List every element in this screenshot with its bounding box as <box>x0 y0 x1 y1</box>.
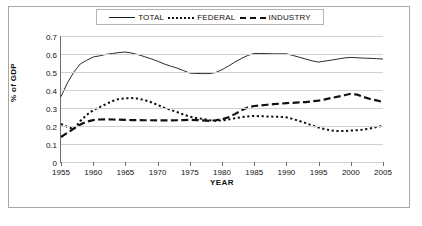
x-tick-label: 1995 <box>310 168 328 177</box>
x-tick-mark <box>125 162 126 166</box>
y-tick-label: 0.6 <box>46 51 57 60</box>
x-tick-label: 1975 <box>181 168 199 177</box>
gridline-y: 0.5 <box>61 72 383 73</box>
x-tick-mark <box>351 162 352 166</box>
x-tick-mark <box>222 162 223 166</box>
gridline-y: 0.3 <box>61 108 383 109</box>
x-tick-mark <box>254 162 255 166</box>
y-tick-label: 0.7 <box>46 33 57 42</box>
y-tick-label: 0.4 <box>46 87 57 96</box>
chart-figure: TOTAL FEDERAL INDUSTRY % of GDP YEAR 0.7… <box>0 0 422 226</box>
x-tick-label: 1985 <box>245 168 263 177</box>
x-tick-label: 1965 <box>116 168 134 177</box>
y-axis-title: % of GDP <box>9 48 18 118</box>
y-tick-label: 0 <box>53 159 57 168</box>
x-tick-mark <box>158 162 159 166</box>
gridline-y: 0.1 <box>61 144 383 145</box>
gridline-y: 0.2 <box>61 126 383 127</box>
x-tick-mark <box>93 162 94 166</box>
x-tick-label: 1970 <box>149 168 167 177</box>
gridline-y: 0.6 <box>61 54 383 55</box>
x-tick-label: 1955 <box>52 168 70 177</box>
x-tick-mark <box>383 162 384 166</box>
x-tick-mark <box>286 162 287 166</box>
x-tick-label: 1960 <box>84 168 102 177</box>
y-tick-label: 0.1 <box>46 141 57 150</box>
series-line-industry <box>61 94 383 137</box>
y-tick-label: 0.2 <box>46 123 57 132</box>
x-tick-mark <box>319 162 320 166</box>
plot-area: 0.70.60.50.40.30.20.10195519601965197019… <box>60 36 383 163</box>
gridline-y: 0.7 <box>61 36 383 37</box>
plot-wrapper: % of GDP YEAR 0.70.60.50.40.30.20.101955… <box>0 0 402 202</box>
y-tick-label: 0.5 <box>46 69 57 78</box>
x-tick-label: 1990 <box>277 168 295 177</box>
gridline-y: 0.4 <box>61 90 383 91</box>
x-tick-mark <box>190 162 191 166</box>
x-tick-label: 2005 <box>374 168 392 177</box>
x-tick-mark <box>61 162 62 166</box>
x-tick-label: 1980 <box>213 168 231 177</box>
y-tick-label: 0.3 <box>46 105 57 114</box>
x-tick-label: 2000 <box>342 168 360 177</box>
x-axis-title: YEAR <box>62 178 382 187</box>
